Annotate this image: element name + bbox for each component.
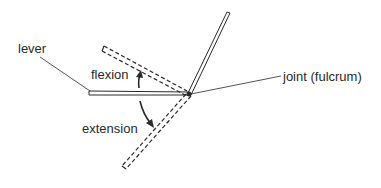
- lever-diagram: lever flexion extension joint (fulcrum): [0, 0, 381, 188]
- lever-bar-upright: [188, 12, 230, 95]
- lever-leader-line: [40, 57, 90, 91]
- joint-point: [187, 92, 192, 97]
- diagram-graphic: [0, 0, 381, 188]
- extension-arrow-icon: [140, 101, 154, 128]
- flexion-label: flexion: [91, 68, 129, 81]
- lever-label: lever: [18, 42, 46, 55]
- flexion-arrow-icon: [136, 70, 143, 88]
- joint-fulcrum-label: joint (fulcrum): [283, 70, 362, 83]
- joint-leader-line: [191, 76, 281, 94]
- extension-label: extension: [82, 122, 138, 135]
- lever-bar-horizontal: [89, 91, 189, 95]
